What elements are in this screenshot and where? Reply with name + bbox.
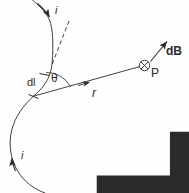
r-line-arrowhead-icon (78, 82, 90, 85)
radius-vector-label: r (92, 87, 96, 99)
wire-lower-path (10, 96, 45, 193)
angle-label: θ (51, 72, 58, 84)
dB-vector-arrow-icon (151, 42, 168, 62)
field-vector-label: dB (166, 45, 182, 57)
r-vector-overbar-icon (92, 81, 96, 86)
dB-vector-overbar-icon (166, 39, 182, 44)
tangent-dashed-line (52, 21, 70, 66)
current-label-bottom: i (21, 150, 23, 161)
field-point-label: P (151, 67, 159, 79)
biot-savart-diagram: i i dl θ r P dB (0, 0, 189, 193)
dl-tick-upper (40, 74, 50, 76)
current-arrow-bottom-icon (12, 158, 16, 171)
current-label-top: i (55, 5, 57, 16)
length-element-label: dl (27, 77, 36, 88)
